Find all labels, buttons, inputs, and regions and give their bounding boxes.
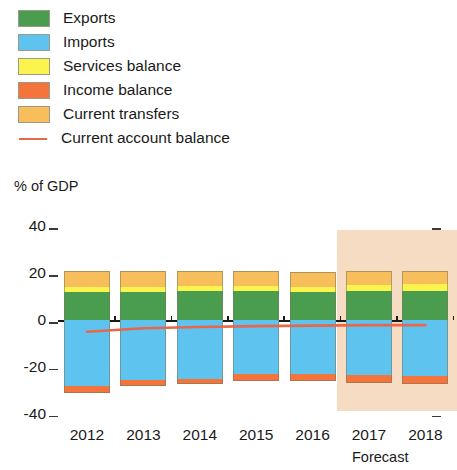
forecast-note: Forecast (352, 449, 408, 465)
x-axis-tick (453, 316, 455, 320)
